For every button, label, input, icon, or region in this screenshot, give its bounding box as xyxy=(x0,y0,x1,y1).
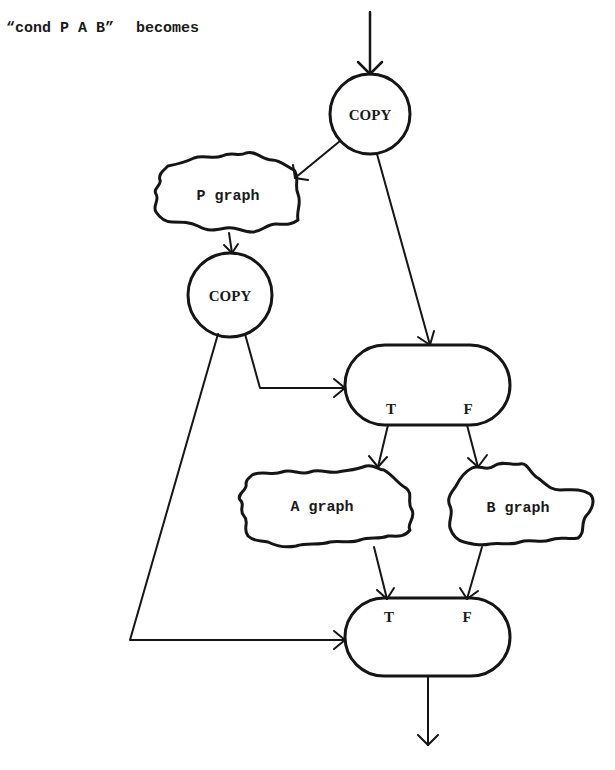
merge-port-false: F xyxy=(462,609,471,625)
merge-node: T F xyxy=(345,598,510,676)
switch-node: T xyxy=(345,345,510,425)
edge-switch-f-to-b-graph xyxy=(467,425,487,467)
edge-a-graph-to-merge-t xyxy=(374,547,394,599)
switch-port-false: F xyxy=(463,401,472,417)
copy-node-mid: COPY xyxy=(188,253,272,337)
edge-input-to-copy-top xyxy=(358,12,382,74)
merge-port-true: T xyxy=(384,609,394,625)
copy-node-top: COPY xyxy=(330,74,410,154)
edge-b-graph-to-merge-f xyxy=(460,547,482,599)
edge-merge-to-output xyxy=(418,676,438,745)
edge-switch-t-to-a-graph xyxy=(369,425,388,467)
copy-mid-label: COPY xyxy=(209,288,252,304)
edge-p-graph-to-copy-mid xyxy=(224,233,238,253)
edge-copy-top-to-switch xyxy=(377,154,434,345)
copy-top-label: COPY xyxy=(349,107,392,123)
edge-copy-mid-to-switch xyxy=(245,334,345,397)
a-graph-label: A graph xyxy=(290,499,353,516)
b-graph-label: B graph xyxy=(486,500,549,517)
edges xyxy=(130,12,487,745)
switch-port-true: T xyxy=(386,401,396,417)
p-graph-label: P graph xyxy=(196,188,259,205)
a-graph-node: A graph xyxy=(239,466,413,547)
p-graph-node: P graph xyxy=(155,152,300,232)
dataflow-diagram: COPY P graph COPY T F A graph B graph T … xyxy=(0,0,615,770)
edge-copy-mid-to-merge xyxy=(130,334,345,649)
edge-copy-top-to-p-graph xyxy=(293,141,340,180)
b-graph-node: B graph xyxy=(449,463,593,545)
